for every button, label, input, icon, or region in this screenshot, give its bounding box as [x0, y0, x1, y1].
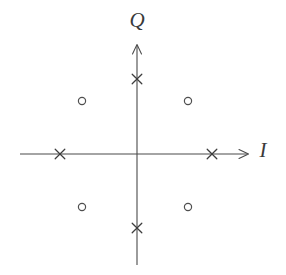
circle-marker-upper-right: [184, 97, 191, 104]
constellation-plot-area: Q I: [0, 0, 286, 275]
circle-marker-lower-right: [184, 203, 191, 210]
circle-marker-lower-left: [78, 203, 85, 210]
constellation-figure: Q I: [0, 0, 286, 275]
circle-marker-upper-left: [78, 97, 85, 104]
quadrature-axis-label: Q: [129, 8, 144, 32]
in-phase-axis-label: I: [259, 138, 268, 162]
